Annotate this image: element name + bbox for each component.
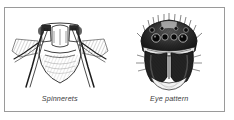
eye-pattern-illustration-holder — [115, 10, 225, 92]
left-leg-joint — [38, 27, 44, 35]
spinnerets-illustration-holder — [5, 10, 115, 92]
figure-panel-inner: Spinnerets — [5, 8, 224, 111]
eye-pattern-illustration — [121, 11, 217, 91]
right-leg-joint — [76, 27, 82, 35]
figure-cell-eye-pattern: Eye pattern — [115, 8, 225, 111]
figure-cell-spinnerets: Spinnerets — [5, 8, 115, 111]
figure-panel: Spinnerets — [4, 7, 225, 112]
caption-eye-pattern: Eye pattern — [115, 94, 225, 103]
spinnerets-illustration — [8, 11, 112, 91]
caption-spinnerets: Spinnerets — [5, 94, 115, 103]
abdomen-shading — [38, 55, 84, 85]
